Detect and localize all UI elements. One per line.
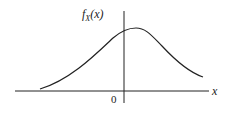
x-axis-label: x [211,84,218,98]
density-diagram: fX(x) x 0 [0,0,233,113]
origin-label: 0 [111,93,117,105]
y-axis-label: fX(x) [82,7,104,23]
density-curve [40,28,203,89]
